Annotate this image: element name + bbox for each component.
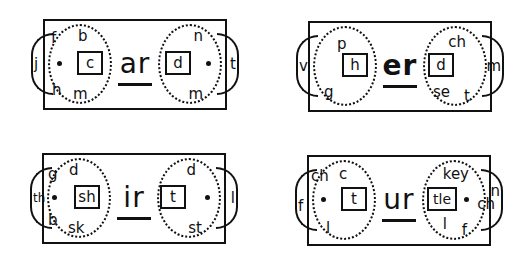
right-tab-letter: l xyxy=(231,189,235,207)
word-card-ur: f n ch c l t ur tle key l f ch xyxy=(307,155,491,246)
right-letter: l xyxy=(443,217,447,232)
right-letter: t xyxy=(464,89,470,104)
left-letter: c xyxy=(339,167,347,182)
left-letter: h xyxy=(52,83,62,98)
left-letter: sk xyxy=(68,221,85,236)
right-letter: f xyxy=(462,223,467,238)
left-letter: f xyxy=(51,31,56,46)
right-dot xyxy=(206,61,211,66)
vowel-underline xyxy=(383,85,417,88)
left-letter: ch xyxy=(311,169,329,184)
left-letter: l xyxy=(326,221,330,236)
left-letter: p xyxy=(337,37,347,52)
vowel-underline xyxy=(382,219,416,222)
left-tab-letter: v xyxy=(299,57,308,75)
right-letter: m xyxy=(188,87,203,102)
vowel-underline xyxy=(117,217,151,220)
vowel-pattern: ar xyxy=(120,47,151,80)
left-tab-letter: f xyxy=(298,197,303,215)
right-letter: st xyxy=(188,221,202,236)
left-tab-letter: th xyxy=(33,191,45,205)
right-letter: d xyxy=(186,163,196,178)
vowel-pattern: ir xyxy=(123,181,144,214)
right-letter-box: d xyxy=(428,53,454,77)
right-dot xyxy=(464,197,469,202)
left-letter-box: sh xyxy=(74,185,100,209)
right-tab-letter: m xyxy=(486,57,501,75)
right-dot xyxy=(205,195,210,200)
left-letter: m xyxy=(73,87,88,102)
left-dot xyxy=(57,61,62,66)
left-letter-box: t xyxy=(341,187,367,211)
right-letter: ch xyxy=(448,35,466,50)
right-letter: n xyxy=(193,29,203,44)
word-card-ir: th l g d b sk sh ir t d st xyxy=(42,153,226,244)
left-letter-box: h xyxy=(342,53,368,77)
right-tab-letter: t xyxy=(230,55,236,73)
left-tab-letter: j xyxy=(34,55,38,73)
right-letter: se xyxy=(433,85,450,100)
right-letter-box: tle xyxy=(427,187,457,211)
right-letter-box: d xyxy=(165,51,191,75)
left-letter: b xyxy=(48,213,58,228)
right-letter-box: t xyxy=(160,185,186,209)
left-letter: g xyxy=(324,85,334,100)
left-letter: d xyxy=(69,163,79,178)
vowel-pattern: er xyxy=(383,49,418,82)
vowel-pattern: ur xyxy=(383,183,414,216)
word-card-er: v m p g h er d ch se t xyxy=(308,21,492,112)
left-letter: b xyxy=(78,29,88,44)
left-dot xyxy=(321,197,326,202)
left-letter: g xyxy=(48,167,58,182)
vowel-underline xyxy=(118,83,152,86)
right-letter: key xyxy=(443,167,469,182)
word-card-ar: j t f b h m c ar d n m xyxy=(43,19,227,110)
left-letter-box: c xyxy=(77,51,103,75)
left-dot xyxy=(52,195,57,200)
right-tab-extra-letter: ch xyxy=(477,197,495,212)
